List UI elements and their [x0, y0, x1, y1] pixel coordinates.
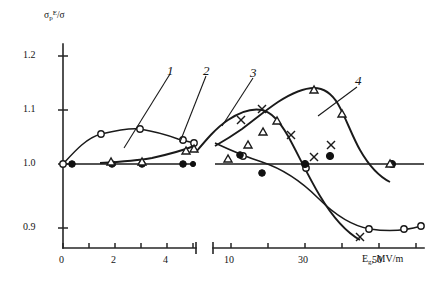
x-axis-title-tail: , MV/m	[372, 253, 404, 264]
curve-4-markers	[237, 105, 364, 241]
chart-canvas	[0, 0, 448, 283]
curve-3-markers	[107, 86, 394, 167]
curve-label-2: 2	[203, 64, 210, 77]
leader-line-2	[180, 76, 206, 142]
x-tick-label-left-3: 4	[163, 255, 168, 265]
curve-4-path	[196, 109, 360, 240]
curve-1-path	[63, 129, 421, 231]
chart-figure: σpE/σ 1.2 1.1 1.0 0.9 0 2 4 10 30 50 Eg,…	[0, 0, 448, 283]
annotation-leader-lines	[124, 74, 357, 148]
curve-label-1: 1	[167, 64, 174, 77]
x-axis-break-marks	[196, 242, 213, 254]
curve-label-3: 3	[250, 66, 257, 79]
axis-lines	[63, 44, 424, 248]
leader-line-4	[318, 87, 357, 116]
curve-3-path	[100, 88, 390, 182]
x-tick-label-left-1: 0	[59, 255, 64, 265]
y-axis-title-tail: /σ	[57, 10, 65, 20]
leader-line-3	[222, 78, 253, 126]
curve-label-4: 4	[355, 74, 362, 87]
leader-line-1	[124, 74, 170, 148]
x-tick-label-right-1: 10	[224, 255, 234, 265]
x-axis-title: Eg, MV/m	[362, 254, 403, 266]
x-tick-label-right-2: 30	[298, 255, 308, 265]
y-tick-label-4: 0.9	[23, 222, 36, 232]
y-tick-label-1: 1.2	[23, 50, 36, 60]
y-axis-title: σpE/σ	[44, 10, 65, 22]
x-tick-label-left-2: 2	[111, 255, 116, 265]
y-tick-label-3: 1.0	[23, 158, 36, 168]
curve-1-markers	[60, 126, 424, 232]
y-tick-label-2: 1.1	[23, 104, 36, 114]
